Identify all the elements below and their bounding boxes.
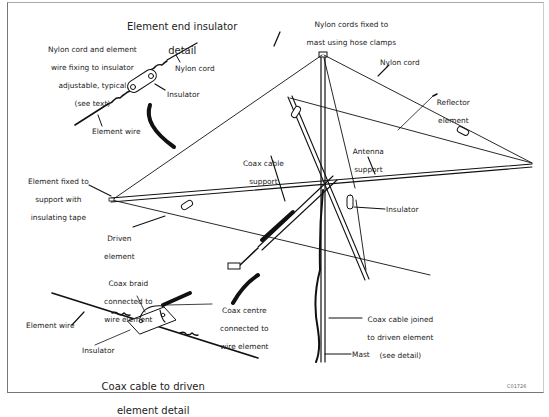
- coax-centre-label: Coax centre connected to wire element: [212, 297, 272, 351]
- fixing-note-label: Nylon cord and element wire fixing to in…: [35, 36, 145, 108]
- coax-element-wire-label: Element wire: [26, 321, 74, 330]
- coax-insulator-label: Insulator: [82, 346, 114, 355]
- coax-joined-label: Coax cable joined to driven element (see…: [358, 306, 438, 360]
- insulator-label: Insulator: [386, 205, 418, 214]
- reflector-element-label: Reflector element: [426, 89, 476, 125]
- nylon-cord-label: Nylon cord: [380, 58, 420, 67]
- driven-element-label: Driven element: [97, 225, 137, 261]
- antenna-support-label: Antenna support: [344, 138, 388, 174]
- detail-element-wire-label: Element wire: [92, 127, 140, 136]
- element-fixed-label: Element fixed to support with insulating…: [20, 168, 92, 222]
- coax-cable-support-label: Coax cable support: [236, 150, 286, 186]
- detail-nylon-cord-label: Nylon cord: [175, 64, 215, 73]
- mast-top-label: Nylon cords fixed to mast using hose cla…: [300, 11, 398, 47]
- coax-braid-label: Coax braid connected to wire element: [96, 270, 156, 324]
- mast-label: Mast: [352, 350, 370, 359]
- coax-detail-title: Coax cable to driven element detail: [90, 369, 210, 417]
- detail-insulator-label: Insulator: [167, 90, 199, 99]
- reference-code: C01726: [507, 383, 526, 389]
